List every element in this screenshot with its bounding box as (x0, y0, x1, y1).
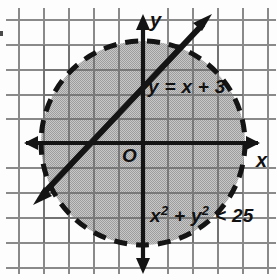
axis-x-label: x (256, 150, 267, 170)
inequality-y-exponent: 2 (202, 203, 209, 218)
inequality-label: x2 + y2 < 25 (150, 205, 254, 225)
coordinate-plane-graph (0, 0, 277, 280)
inequality-x-term: x (150, 205, 161, 226)
inequality-plus-sign: + (174, 205, 185, 226)
inequality-relation-sign: < (215, 205, 226, 226)
axis-y-label: y (150, 10, 161, 30)
line-equation-label: y = x + 3 (148, 77, 226, 96)
scan-edge-artifact (0, 31, 3, 36)
inequality-right-side: 25 (232, 205, 254, 226)
figure-container: y x O y = x + 3 x2 + y2 < 25 (0, 0, 277, 280)
inequality-y-term: y (191, 205, 202, 226)
origin-label: O (122, 146, 137, 165)
inequality-x-exponent: 2 (161, 203, 168, 218)
